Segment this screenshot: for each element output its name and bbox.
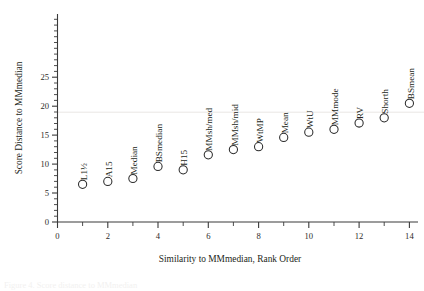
point-marker[interactable] <box>79 180 87 188</box>
y-axis-tick-labels: 0 5 10 15 20 25 <box>40 72 49 227</box>
x-axis-tick-labels: 0 2 4 6 8 10 12 14 <box>55 231 414 241</box>
point-marker[interactable] <box>380 114 388 122</box>
point-marker[interactable] <box>204 151 212 159</box>
x-axis-title: Similarity to MMmedian, Rank Order <box>159 254 302 264</box>
y-axis-major-ticks <box>52 77 58 222</box>
plot-canvas: 0 5 10 15 20 25 Score Distance to MMmedi… <box>0 0 424 291</box>
point-label: BSmean <box>406 68 416 100</box>
data-points-group: L1½ A15 Median BSmedian H15 MMsh/med <box>79 68 416 189</box>
data-point[interactable]: Median <box>129 146 139 183</box>
point-label: MMmode <box>330 88 340 125</box>
point-marker[interactable] <box>179 166 187 174</box>
data-point[interactable]: L1½ <box>79 163 89 188</box>
point-marker[interactable] <box>305 128 313 136</box>
y-axis-title: Score Distance to MMmedian <box>14 61 24 174</box>
point-marker[interactable] <box>330 125 338 133</box>
x-tick-label: 12 <box>355 231 364 241</box>
data-point[interactable]: BSmedian <box>154 124 164 171</box>
x-tick-label: 0 <box>55 231 59 241</box>
data-point[interactable]: BSmean <box>405 68 415 108</box>
x-tick-label: 14 <box>405 231 414 241</box>
point-marker[interactable] <box>129 174 137 182</box>
y-tick-label: 10 <box>40 159 49 169</box>
point-marker[interactable] <box>405 99 413 107</box>
point-marker[interactable] <box>229 146 237 154</box>
point-marker[interactable] <box>104 177 112 185</box>
data-point[interactable]: MMsh/mid <box>229 104 239 154</box>
point-label: H15 <box>179 149 189 165</box>
point-label: WtMP <box>255 118 265 143</box>
x-tick-label: 8 <box>256 231 260 241</box>
y-tick-label: 15 <box>40 130 49 140</box>
point-label: Shorth <box>380 89 390 114</box>
point-label: Median <box>129 146 139 174</box>
data-point[interactable]: WtMP <box>255 118 265 151</box>
x-tick-label: 2 <box>106 231 110 241</box>
point-marker[interactable] <box>280 133 288 141</box>
data-point[interactable]: MMmode <box>330 88 340 133</box>
data-point[interactable]: Mean <box>280 112 290 142</box>
point-marker[interactable] <box>154 162 162 170</box>
point-label: L1½ <box>79 163 89 180</box>
point-marker[interactable] <box>355 119 363 127</box>
data-point[interactable]: RV <box>355 107 365 128</box>
scatter-plot-figure: 0 5 10 15 20 25 Score Distance to MMmedi… <box>0 0 424 291</box>
point-label: BSmedian <box>154 124 164 163</box>
x-tick-label: 4 <box>156 231 161 241</box>
point-marker[interactable] <box>255 143 263 151</box>
point-label: MMsh/med <box>204 107 214 150</box>
data-point[interactable]: H15 <box>179 149 189 173</box>
data-point[interactable]: A15 <box>104 161 114 185</box>
y-tick-label: 20 <box>40 101 49 111</box>
point-label: WtU <box>305 110 315 128</box>
y-tick-label: 5 <box>45 188 49 198</box>
data-point[interactable]: WtU <box>305 110 315 136</box>
figure-caption-partial: Figure 4. Score distance to MMmedian <box>4 280 304 291</box>
y-tick-label: 0 <box>45 217 49 227</box>
point-label: MMsh/mid <box>230 104 240 146</box>
x-tick-label: 10 <box>305 231 314 241</box>
y-tick-label: 25 <box>40 72 49 82</box>
data-point[interactable]: Shorth <box>380 89 390 122</box>
x-axis-minor-ticks <box>83 222 385 226</box>
point-label: Mean <box>280 112 290 133</box>
point-label: RV <box>355 107 365 119</box>
data-point[interactable]: MMsh/med <box>204 107 214 158</box>
point-label: A15 <box>104 161 114 177</box>
x-tick-label: 6 <box>206 231 211 241</box>
